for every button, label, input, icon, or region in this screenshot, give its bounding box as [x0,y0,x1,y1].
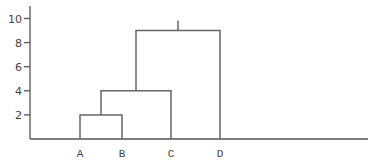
y-tick-label: 10 [8,13,22,26]
leaf-labels: ABCD [77,148,224,160]
merge-link-abcd [136,31,220,139]
leaf-label-a: A [77,148,84,160]
y-tick-label: 2 [15,109,22,122]
axes: 246810 [8,6,368,139]
leaf-label-b: B [119,148,126,160]
dendrogram-chart: 246810 ABCD [0,0,379,165]
leaf-label-c: C [168,148,175,160]
merge-link-ab [80,115,122,139]
leaf-label-d: D [217,148,224,160]
y-tick-label: 8 [15,37,22,50]
y-tick-label: 6 [15,61,22,74]
y-tick-label: 4 [15,85,22,98]
dendrogram-svg: 246810 ABCD [0,0,379,165]
dendrogram-links [80,21,220,140]
